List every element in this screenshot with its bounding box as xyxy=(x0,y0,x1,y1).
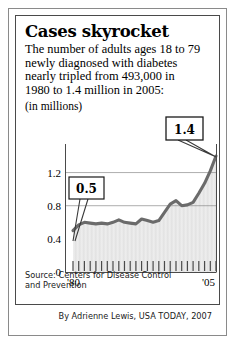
source-line-2: and Prevention xyxy=(25,281,215,291)
callout-1-4-leader xyxy=(178,140,216,157)
area-fill xyxy=(73,156,216,272)
y-tick-label: 0.8 xyxy=(47,200,61,212)
graphic-inner-frame: Cases skyrocket The number of adults age… xyxy=(15,15,220,305)
y-tick-labels: 00.40.81.2 xyxy=(47,167,61,278)
y-tick-label: 0.4 xyxy=(47,233,61,245)
y-tick-label: 1.2 xyxy=(47,167,61,179)
area-chart: 00.40.81.2 '80 '05 0.5 1.4 xyxy=(16,16,220,305)
callout-1-4: 1.4 xyxy=(166,117,216,157)
graphic-outer-frame: Cases skyrocket The number of adults age… xyxy=(8,8,227,336)
callout-1-4-label: 1.4 xyxy=(174,123,195,137)
callout-0-5-label: 0.5 xyxy=(76,182,97,196)
credit-line: By Adrienne Lewis, USA TODAY, 2007 xyxy=(9,311,220,321)
chart-area: 00.40.81.2 '80 '05 0.5 1.4 xyxy=(16,16,220,305)
source-note: Source: Centers for Disease Control and … xyxy=(25,271,215,290)
